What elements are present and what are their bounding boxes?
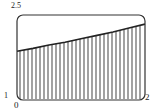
plot-area [0, 0, 151, 112]
curve-line [17, 24, 145, 51]
hatch-fill [20, 25, 140, 99]
